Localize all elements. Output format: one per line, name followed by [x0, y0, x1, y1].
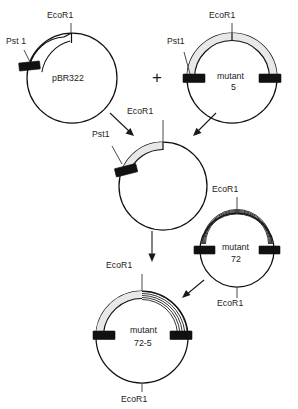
- hybrid-pst1-tick: [112, 146, 122, 164]
- mutant5-number-label: 5: [231, 82, 236, 92]
- mutant72-number-label: 72: [231, 254, 241, 264]
- mutant5-pst1-site-right: [259, 74, 281, 83]
- plasmid-mutant5: EcoR1 Pst1 mutant 5: [167, 10, 281, 123]
- plasmid-mutant72: EcoR1 mutant 72 EcoR1: [194, 184, 280, 308]
- plasmid-pbr322: EcoR1 Pst 1 pBR322: [6, 10, 117, 123]
- hybrid-ecor1-label: EcoR1: [127, 106, 153, 116]
- arrow-mutant72-to-final: [182, 280, 204, 298]
- mutant72-stripe-3: [204, 210, 271, 244]
- mutant72-5-ecor1-bottom-label: EcoR1: [121, 394, 147, 404]
- mutant72-name-label: mutant: [222, 242, 249, 252]
- mutant72-5-pst1-site-left: [93, 331, 115, 340]
- mutant5-ecor1-label: EcoR1: [209, 10, 235, 20]
- hybrid-pst1-label: Pst1: [92, 129, 110, 139]
- mutant72-5-name-label: mutant: [130, 325, 157, 335]
- arrow-mutant5-to-hybrid: [193, 113, 216, 136]
- mutant72-stripe-1: [202, 214, 273, 244]
- plasmid-mutant72-5: mutant 72-5 EcoR1: [93, 274, 192, 404]
- pbr322-pst1-tick: [24, 50, 30, 62]
- mutant72-ecor1-top-label: EcoR1: [212, 184, 238, 194]
- mutant72-stripe-4: [205, 212, 270, 245]
- final-ecor1-top-label: EcoR1: [106, 260, 132, 270]
- mutant5-pst1-label: Pst1: [167, 36, 185, 46]
- mutant72-ecor1-bottom-label: EcoR1: [217, 298, 243, 308]
- mutant5-name-label: mutant: [217, 71, 244, 81]
- plasmid-hybrid-intermediate: EcoR1 Pst1: [92, 106, 207, 230]
- plasmid-recombination-diagram: EcoR1 Pst 1 pBR322 + EcoR1 Pst1 mutant 5: [0, 0, 298, 409]
- arrow-hybrid-to-final: [148, 231, 155, 262]
- pbr322-name-label: pBR322: [52, 73, 84, 83]
- mutant72-pst1-site-left: [194, 246, 215, 254]
- pbr322-insert-arc-inner: [42, 41, 70, 72]
- arrow-pbr322-to-hybrid: [110, 113, 134, 136]
- mutant72-5-pst1-site-right: [170, 331, 192, 340]
- pbr322-pst1-label: Pst 1: [6, 36, 26, 46]
- plus-operator: +: [152, 68, 162, 87]
- mutant72-pst1-site-right: [259, 246, 280, 254]
- mutant5-pst1-site-left: [183, 74, 205, 83]
- mutant72-stripe-2: [203, 210, 272, 245]
- pbr322-ecor1-label: EcoR1: [47, 10, 73, 20]
- mutant72-5-number-label: 72-5: [134, 338, 152, 348]
- pbr322-pst1-site: [19, 61, 41, 71]
